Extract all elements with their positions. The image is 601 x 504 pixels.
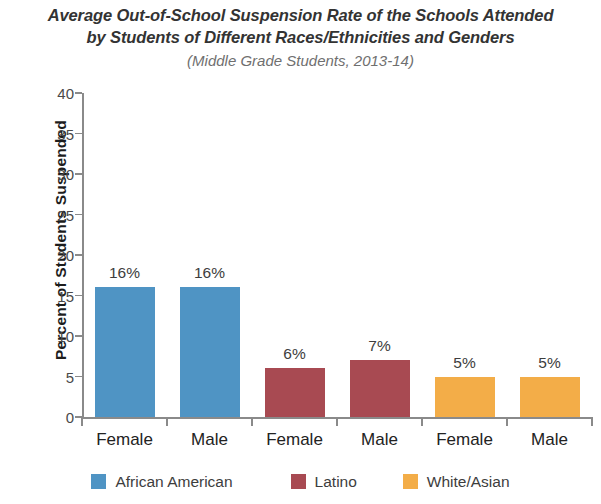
bar xyxy=(180,287,240,417)
chart-legend: African AmericanLatinoWhite/Asian xyxy=(0,474,601,490)
bar-value-label: 6% xyxy=(255,346,335,362)
y-axis-tick xyxy=(75,335,82,337)
y-axis-tick xyxy=(75,295,82,297)
y-axis-tick xyxy=(75,173,82,175)
y-axis-line xyxy=(82,93,84,417)
y-axis-tick xyxy=(75,214,82,216)
x-axis-tick xyxy=(166,417,168,426)
y-axis-tick xyxy=(75,376,82,378)
x-axis-tick xyxy=(251,417,253,426)
y-axis-tick xyxy=(75,92,82,94)
y-axis-tick-label: 5 xyxy=(30,370,74,385)
bar-value-label: 5% xyxy=(425,355,505,371)
legend-label: White/Asian xyxy=(427,474,510,490)
legend-color-swatch xyxy=(291,474,306,489)
chart-subtitle: (Middle Grade Students, 2013-14) xyxy=(0,50,601,72)
chart-title-line-1: Average Out-of-School Suspension Rate of… xyxy=(0,4,601,26)
bar xyxy=(520,377,580,418)
bar-value-label: 7% xyxy=(340,338,420,354)
y-axis-tick xyxy=(75,254,82,256)
y-axis-tick-label: 10 xyxy=(30,329,74,344)
bar-value-label: 5% xyxy=(510,355,590,371)
legend-item[interactable]: African American xyxy=(91,474,232,490)
y-axis-tick-label: 40 xyxy=(30,86,74,101)
y-axis-tick xyxy=(75,133,82,135)
chart-title-block: Average Out-of-School Suspension Rate of… xyxy=(0,4,601,72)
x-axis-tick xyxy=(81,417,83,426)
y-axis-tick-label: 15 xyxy=(30,289,74,304)
legend-label: Latino xyxy=(315,474,357,490)
chart-title-line-2: by Students of Different Races/Ethniciti… xyxy=(0,26,601,48)
y-axis-tick-label: 0 xyxy=(30,410,74,425)
legend-color-swatch xyxy=(91,474,106,489)
legend-color-swatch xyxy=(403,474,418,489)
bar xyxy=(435,377,495,418)
y-axis-tick-label: 25 xyxy=(30,208,74,223)
y-axis-tick-label: 30 xyxy=(30,167,74,182)
bar xyxy=(265,368,325,417)
bar xyxy=(350,360,410,417)
bar-value-label: 16% xyxy=(170,265,250,281)
x-axis-tick xyxy=(591,417,593,426)
y-axis-tick-label: 20 xyxy=(30,248,74,263)
bar-value-label: 16% xyxy=(85,265,165,281)
x-axis-category-label: Male xyxy=(500,431,600,448)
y-axis-title: Percent of Students Suspended xyxy=(52,75,70,405)
legend-item[interactable]: White/Asian xyxy=(403,474,510,490)
x-axis-tick xyxy=(506,417,508,426)
x-axis-tick xyxy=(421,417,423,426)
legend-label: African American xyxy=(115,474,232,490)
plot-area: 0510152025303540 16%16%6%7%5%5% FemaleMa… xyxy=(82,93,592,417)
legend-item[interactable]: Latino xyxy=(291,474,357,490)
x-axis-tick xyxy=(336,417,338,426)
bar xyxy=(95,287,155,417)
y-axis-tick-label: 35 xyxy=(30,127,74,142)
chart-area: Percent of Students Suspended 0510152025… xyxy=(0,85,601,435)
